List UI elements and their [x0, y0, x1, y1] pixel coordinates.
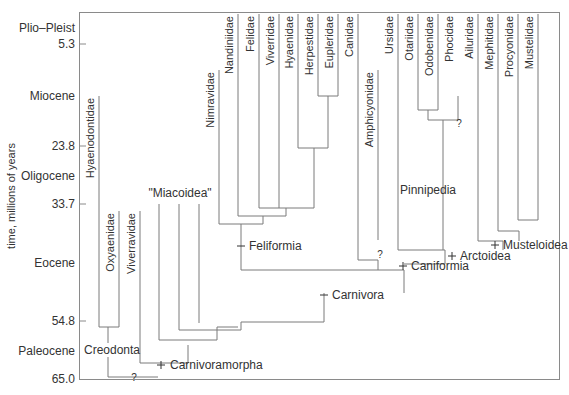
question-mark: ? [377, 249, 383, 260]
clade-label-carnivora: Carnivora [332, 288, 384, 302]
taxon-label-ailuridae: Ailuridae [463, 16, 475, 59]
clade-label-musteloidea: Musteloidea [503, 238, 568, 252]
taxon-label-viverridae: Viverridae [264, 16, 276, 65]
taxon-labels: Hyaenodontidae Oxyaenidae Viverravidae N… [84, 16, 535, 274]
epoch-labels: Plio–Pleist Miocene Oligocene Eocene Pal… [18, 21, 75, 358]
taxon-label-procyonidae: Procyonidae [503, 16, 515, 77]
tick-label: 5.3 [58, 37, 75, 51]
taxon-label-herpestidae: Herpestidae [303, 16, 315, 75]
tick-label: 65.0 [52, 372, 76, 386]
clade-labels: Creodonta Carnivoramorpha Carnivora Feli… [84, 238, 568, 372]
taxon-label-mephitidae: Mephitidae [483, 16, 495, 70]
epoch-label: Eocene [34, 256, 75, 270]
taxon-label-nimravidae: Nimravidae [204, 72, 216, 128]
taxon-label-phocidae: Phocidae [443, 16, 455, 62]
tick-label: 33.7 [52, 197, 76, 211]
y-axis-ticks [79, 44, 86, 321]
y-axis-label: time, millions of years [5, 143, 17, 249]
clade-label-carnivoramorpha: Carnivoramorpha [170, 358, 263, 372]
taxon-label-canidae: Canidae [343, 16, 355, 57]
taxon-label-oxyaenidae: Oxyaenidae [104, 213, 116, 272]
taxon-label-viverravidae: Viverravidae [125, 213, 137, 274]
taxon-label-ursidae: Ursidae [383, 16, 395, 54]
phylogeny-chart: time, millions of years 5.3 23.8 33.7 54… [0, 0, 569, 395]
taxon-label-eupleridae: Eupleridae [323, 16, 335, 69]
epoch-label: Oligocene [21, 169, 75, 183]
taxon-label-hyaenodontidae: Hyaenodontidae [84, 98, 96, 178]
clade-label-creodonta: Creodonta [84, 343, 140, 357]
epoch-label: Miocene [30, 89, 76, 103]
tick-label: 23.8 [52, 139, 76, 153]
taxon-label-amphicyonidae: Amphicyonidae [363, 72, 375, 147]
group-label-pinnipedia: Pinnipedia [400, 183, 456, 197]
clade-label-feliformia: Feliformia [249, 239, 302, 253]
group-label-miacoidea: "Miacoidea" [148, 186, 211, 200]
epoch-label: Plio–Pleist [19, 21, 76, 35]
taxon-label-felidae: Felidae [244, 16, 256, 52]
tick-label: 54.8 [52, 314, 76, 328]
taxon-label-mustelidae: Mustelidae [523, 16, 535, 69]
taxon-label-hyaenidae: Hyaenidae [283, 16, 295, 69]
question-mark: ? [456, 118, 462, 129]
question-mark: ? [131, 372, 137, 383]
taxon-label-otariidae: Otariidae [403, 16, 415, 61]
epoch-label: Paleocene [18, 344, 75, 358]
taxon-label-nandiniidae: Nandiniidae [223, 16, 235, 74]
taxon-label-odobenidae: Odobenidae [423, 16, 435, 76]
